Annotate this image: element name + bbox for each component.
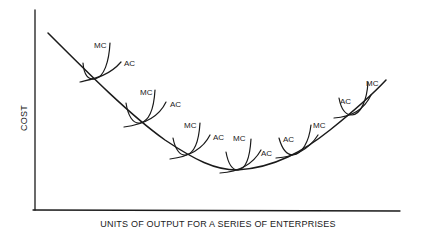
y-axis-label: COST	[19, 105, 29, 131]
mc-label: MC	[366, 79, 379, 88]
mc-label: MC	[233, 134, 246, 143]
mc-label: MC	[313, 121, 326, 130]
ac-curve	[80, 62, 121, 82]
ac-label: AC	[261, 149, 272, 158]
mc-label: MC	[140, 88, 153, 97]
ac-label: AC	[213, 133, 224, 142]
ac-label: AC	[124, 59, 135, 68]
cost-diagram: COST UNITS OF OUTPUT FOR A SERIES OF ENT…	[0, 0, 421, 231]
x-axis-label: UNITS OF OUTPUT FOR A SERIES OF ENTERPRI…	[100, 219, 335, 229]
enterprise-1-curves: MC AC	[80, 41, 135, 82]
ac-label: AC	[170, 100, 181, 109]
mc-label: MC	[94, 41, 107, 50]
ac-label: AC	[340, 97, 351, 106]
long-run-average-cost-curve	[48, 33, 386, 170]
enterprise-6-curves: AC MC	[334, 79, 379, 118]
ac-curve	[124, 102, 166, 127]
enterprise-4-curves: MC AC	[220, 134, 272, 173]
mc-label: MC	[184, 121, 197, 130]
enterprise-3-curves: MC AC	[170, 121, 224, 159]
enterprise-2-curves: MC AC	[124, 88, 181, 127]
x-axis	[33, 210, 400, 211]
ac-label: AC	[283, 135, 294, 144]
